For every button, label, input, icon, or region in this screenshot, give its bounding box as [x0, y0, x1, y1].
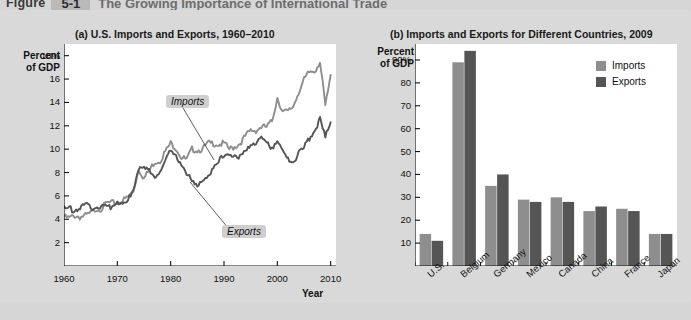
panel-a-x-tick: 1960 — [44, 273, 84, 284]
panel-a-y-tick: 16 — [26, 73, 60, 84]
panel-a-y-tick: 2 — [26, 237, 60, 248]
panel-b-y-tick: 80 — [377, 77, 411, 88]
panel-a-title: (a) U.S. Imports and Exports, 1960–2010 — [75, 28, 275, 40]
figure-title: The Growing Importance of International … — [98, 0, 387, 11]
panel-a-x-tick: 2000 — [257, 273, 297, 284]
panel-b-y-tick: 70 — [377, 100, 411, 111]
panel-a-exports-callout: Exports — [222, 225, 266, 238]
panel-a-y-caption-line2: of GDP — [8, 62, 60, 74]
panel-a-x-tick: 2010 — [311, 273, 351, 284]
panel-b-legend: ImportsExports — [596, 60, 646, 92]
panel-a-y-tick: 4 — [26, 213, 60, 224]
panel-a-plot-area — [64, 44, 336, 266]
panel-a-line-chart — [64, 44, 336, 266]
panel-a-y-tick: 18% — [26, 50, 60, 61]
panel-a-x-tick: 1980 — [151, 273, 191, 284]
figure-label: Figure — [0, 0, 51, 10]
panel-b-y-tick: 30 — [377, 191, 411, 202]
panel-a-x-tick: 1970 — [97, 273, 137, 284]
panel-a-y-tick: 12 — [26, 120, 60, 131]
panel-b-y-tick: 50 — [377, 146, 411, 157]
panel-b-title: (b) Imports and Exports for Different Co… — [390, 28, 653, 40]
legend-item: Imports — [596, 60, 646, 71]
figure-container: Figure 5-1 The Growing Importance of Int… — [0, 0, 691, 320]
panel-b-y-tick: 60 — [377, 123, 411, 134]
legend-swatch-exports — [596, 77, 606, 87]
panel-b-y-tick: 40 — [377, 168, 411, 179]
legend-item: Exports — [596, 76, 646, 87]
panel-a-y-tick: 8 — [26, 167, 60, 178]
panel-b-y-tick: 90% — [377, 54, 411, 65]
panel-a-imports-callout: Imports — [166, 95, 209, 108]
panel-b-y-tick: 20 — [377, 214, 411, 225]
panel-a-y-tick: 10 — [26, 143, 60, 154]
legend-label: Exports — [612, 76, 646, 87]
panel-a-y-tick: 14 — [26, 96, 60, 107]
legend-label: Imports — [612, 60, 645, 71]
legend-swatch-imports — [596, 61, 606, 71]
panel-a-y-tick: 6 — [26, 190, 60, 201]
panel-a-x-axis-label: Year — [302, 288, 323, 299]
panel-a-x-tick: 1990 — [204, 273, 244, 284]
panel-b-y-tick: 10 — [377, 237, 411, 248]
